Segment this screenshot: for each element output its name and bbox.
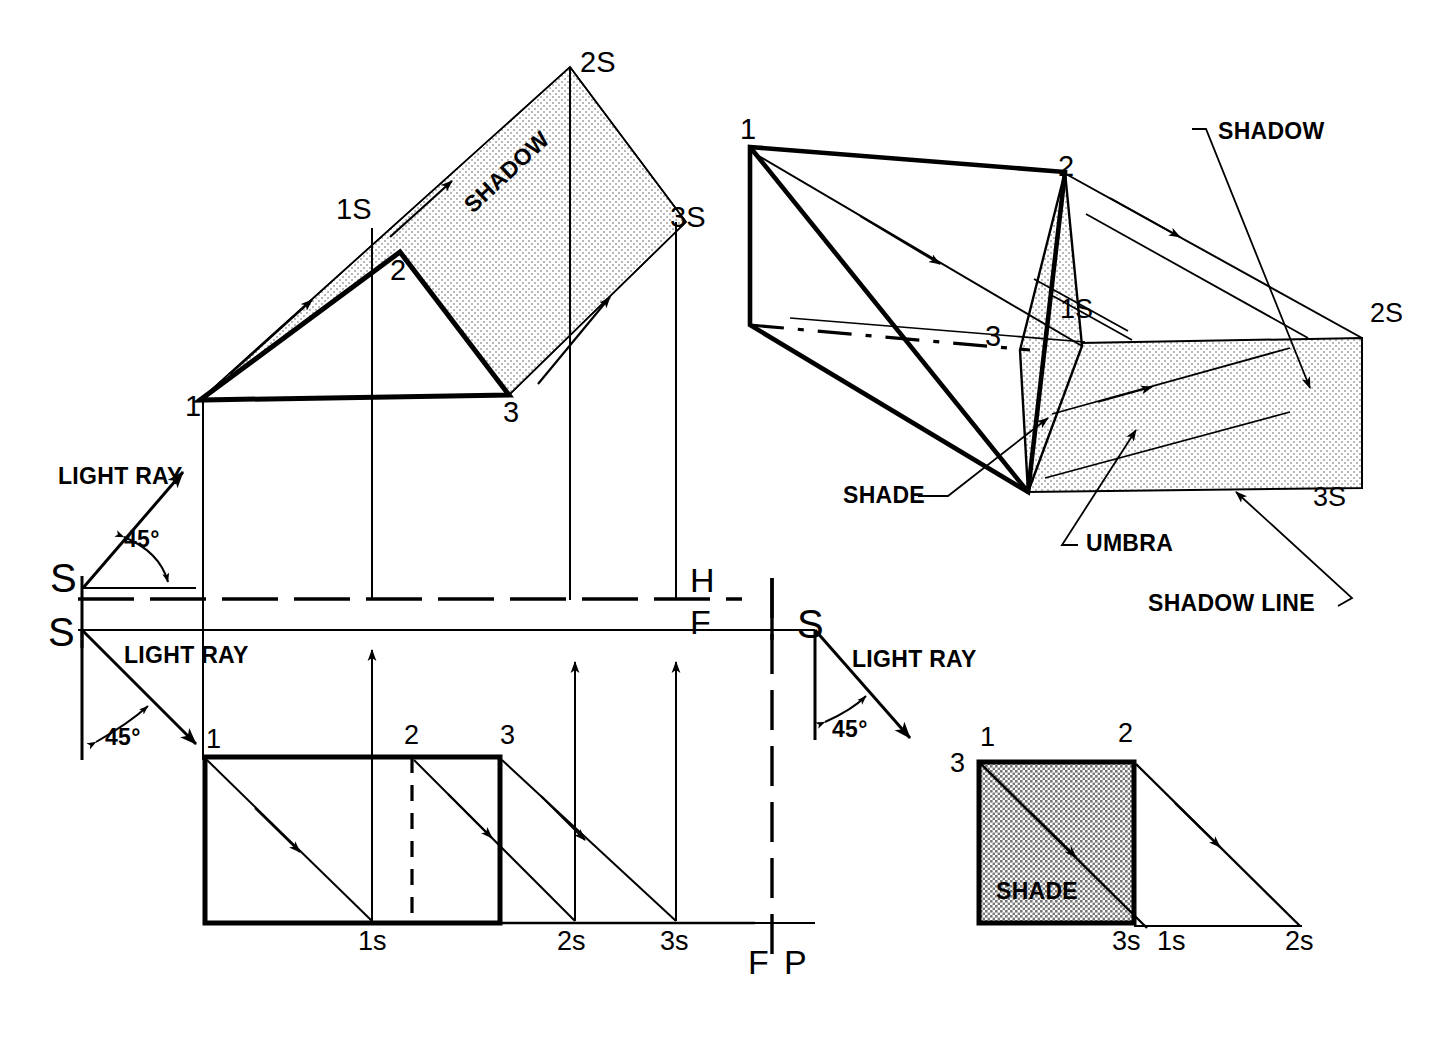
technical-drawing-canvas: 2S 3S 1S 1 2 3 SHADOW LIGHT RAY 45° S H … [0, 0, 1430, 1041]
front-view-ray-2-arrowhead [448, 794, 492, 838]
light-ray-front-angle-label: 45° [105, 726, 141, 749]
profile-view-label-3s: 3s [1112, 928, 1141, 955]
top-view-label-1: 1 [185, 392, 201, 421]
pictorial-view-group [750, 129, 1362, 606]
front-view-ray-3-3s [502, 760, 676, 921]
pictorial-object-outline [750, 147, 1065, 492]
light-ray-top-angle-label: 45° [124, 528, 160, 551]
pictorial-label-3: 3 [985, 322, 1001, 351]
light-ray-profile-angle-label: 45° [832, 718, 868, 741]
light-ray-profile-label: LIGHT RAY [852, 648, 977, 671]
light-source-profile-label: S [797, 604, 824, 644]
front-view-label-1s: 1s [358, 928, 387, 955]
front-view-object-rect [205, 757, 500, 923]
profile-view-shade-label: SHADE [996, 880, 1078, 903]
profile-view-label-1: 1 [980, 724, 995, 751]
front-view-ray-1-arrowhead [255, 808, 300, 852]
top-view-label-3s: 3S [670, 203, 705, 232]
profile-view-label-2s: 2s [1285, 928, 1314, 955]
profile-view-label-3: 3 [950, 750, 965, 777]
pictorial-label-1s: 1S [1060, 296, 1093, 323]
light-ray-top-label: LIGHT RAY [58, 465, 183, 488]
pictorial-label-3s: 3S [1313, 484, 1346, 511]
h-reference-label: H [690, 563, 715, 597]
pictorial-label-2s: 2S [1370, 300, 1403, 327]
pictorial-callout-umbra: UMBRA [1086, 532, 1173, 555]
light-source-front-label: S [48, 612, 75, 652]
top-view-label-2s: 2S [580, 48, 615, 77]
pictorial-ray-1-to-1s [752, 152, 1082, 346]
profile-view-label-1s: 1s [1157, 928, 1186, 955]
light-source-top-label: S [50, 558, 77, 598]
profile-view-ray-2-arrowhead [1175, 803, 1220, 847]
top-view-ray-arrow-a [230, 300, 312, 374]
profile-view-label-2: 2 [1118, 720, 1133, 747]
top-view-label-1s: 1S [336, 195, 371, 224]
top-view-group [200, 67, 686, 760]
pictorial-ray-2-arrowhead [1110, 198, 1180, 237]
p-reference-label: P [784, 945, 807, 979]
drawing-surface [0, 0, 1430, 1041]
f-reference-label: F [690, 605, 711, 639]
pictorial-callout-shade: SHADE [843, 484, 925, 507]
top-view-label-2: 2 [390, 256, 406, 285]
pictorial-label-1: 1 [740, 115, 756, 144]
pictorial-ray-hint-a [1086, 214, 1308, 338]
pictorial-callout-shadow: SHADOW [1218, 120, 1325, 143]
pictorial-ray-1-arrowhead [860, 216, 940, 264]
top-view-label-3: 3 [503, 398, 519, 427]
pictorial-callout-shadow-line: SHADOW LINE [1148, 592, 1315, 615]
front-view-ray-3-arrowhead [541, 796, 585, 840]
f-profile-reference-label: F [748, 945, 769, 979]
front-view-label-3: 3 [500, 722, 515, 749]
front-view-label-3s: 3s [660, 928, 689, 955]
front-view-ray-2-2s [414, 760, 575, 921]
front-view-group [205, 650, 755, 923]
light-ray-front-label: LIGHT RAY [124, 644, 249, 667]
pictorial-label-2: 2 [1058, 152, 1074, 181]
front-view-label-2s: 2s [557, 928, 586, 955]
front-view-label-1: 1 [206, 726, 221, 753]
top-view-shadow-region [200, 67, 686, 400]
front-view-label-2: 2 [404, 722, 419, 749]
